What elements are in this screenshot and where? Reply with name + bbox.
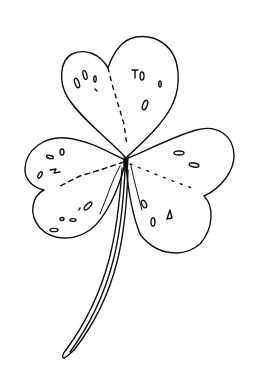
right-leaf [126,128,234,252]
shamrock-icon [0,0,263,380]
shamrock-drawing: Hand-drawn three-leaf clover (shamrock) … [0,0,263,380]
stem [63,158,142,358]
